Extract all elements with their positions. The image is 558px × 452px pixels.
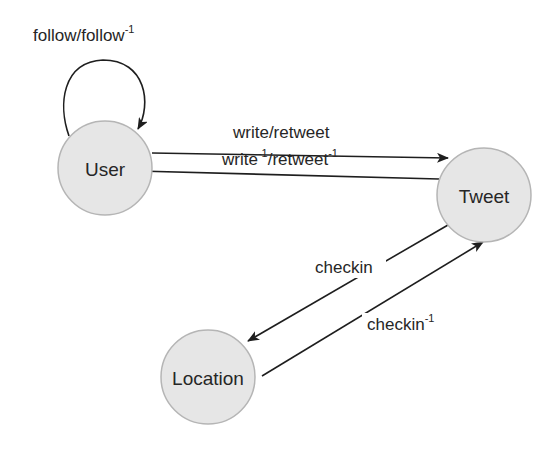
- tweet-node-label: Tweet: [459, 186, 510, 207]
- edge-write-retweet-inverse: write-1/retweet-1: [138, 147, 439, 179]
- node-user: User: [58, 121, 152, 215]
- diagram-canvas: follow/follow-1 write/retweet write-1/re…: [0, 0, 558, 452]
- follow-edge-label: follow/follow-1: [33, 23, 134, 45]
- write-retweet-edge-label: write/retweet: [232, 123, 330, 142]
- edge-follow: follow/follow-1: [33, 23, 145, 136]
- write-retweet-inverse-arrow: [138, 171, 439, 179]
- checkin-inverse-edge-label: checkin-1: [367, 312, 434, 334]
- node-location: Location: [161, 330, 255, 424]
- write-retweet-inverse-edge-label: write-1/retweet-1: [221, 147, 338, 169]
- checkin-edge-label: checkin: [315, 258, 373, 277]
- user-node-label: User: [85, 159, 126, 180]
- node-tweet: Tweet: [437, 148, 531, 242]
- location-node-label: Location: [172, 368, 244, 389]
